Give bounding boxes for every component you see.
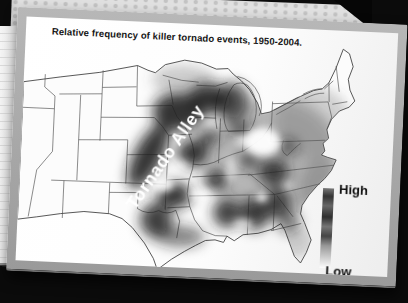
legend-high-label: High [339, 182, 369, 198]
legend-low-label: Low [325, 263, 352, 277]
slide-page: Relative frequency of killer tornado eve… [16, 16, 399, 277]
slide-frame: Relative frequency of killer tornado eve… [6, 7, 408, 288]
